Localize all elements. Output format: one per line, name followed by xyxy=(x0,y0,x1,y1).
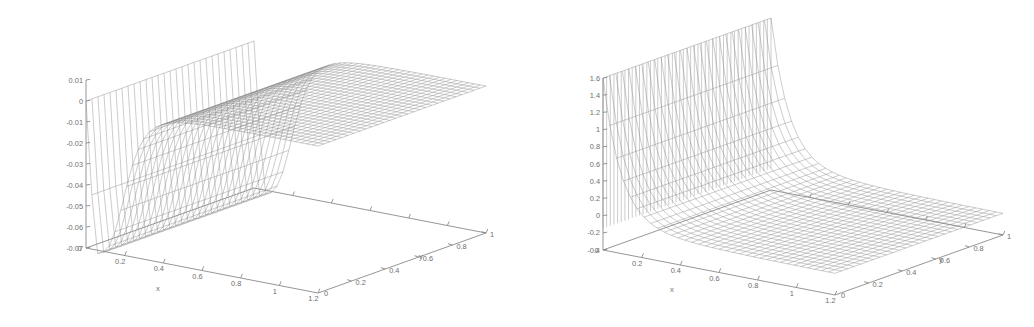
tick-label: 0.01 xyxy=(69,76,83,85)
tick-label: 0.2 xyxy=(873,280,883,289)
x-axis-label: x xyxy=(670,285,674,294)
tick-label: 0.8 xyxy=(456,242,466,251)
tick-label: 0.6 xyxy=(192,272,202,281)
x-axis-label: x xyxy=(156,284,160,293)
tick-label: 1 xyxy=(1007,232,1011,241)
tick-label: 0.4 xyxy=(590,177,600,186)
surface-mesh xyxy=(603,18,1003,273)
tick-label: 0.8 xyxy=(748,281,758,290)
left-surface-plot: 0.010-0.01-0.02-0.03-0.04-0.05-0.06-0.07… xyxy=(0,0,517,327)
base-axes xyxy=(86,188,488,293)
tick-label: -0.02 xyxy=(66,139,83,148)
tick-label: -0.06 xyxy=(66,223,83,232)
tick-label: 1.2 xyxy=(308,294,318,303)
tick-label: 1 xyxy=(273,287,277,296)
right-surface-plot: 1.61.41.210.80.60.40.20-0.2-0.400.20.40.… xyxy=(517,0,1034,327)
tick-label: -0.05 xyxy=(66,202,83,211)
tick-label: 1.2 xyxy=(825,296,835,305)
tick-label: -0.01 xyxy=(66,118,83,127)
tick-label: 0 xyxy=(841,291,845,300)
z-axis xyxy=(86,79,90,248)
tick-label: 0.4 xyxy=(671,266,681,275)
tick-label: 0.8 xyxy=(231,279,241,288)
tick-label: 0.2 xyxy=(115,257,125,266)
figure-canvas: 0.010-0.01-0.02-0.03-0.04-0.05-0.06-0.07… xyxy=(0,0,1034,327)
y-axis-label: y xyxy=(419,252,423,261)
tick-label: -0.03 xyxy=(66,160,83,169)
tick-label: 1.4 xyxy=(590,91,600,100)
tick-label: 0 xyxy=(79,97,83,106)
left-plot-svg: 0.010-0.01-0.02-0.03-0.04-0.05-0.06-0.07… xyxy=(0,0,517,327)
tick-label: -0.2 xyxy=(587,228,600,237)
tick-label: 0.6 xyxy=(709,274,719,283)
tick-label: 0.4 xyxy=(389,266,399,275)
tick-label: 0 xyxy=(77,244,81,253)
tick-label: 0.8 xyxy=(973,244,983,253)
tick-label: 0.4 xyxy=(906,268,916,277)
right-plot-svg: 1.61.41.210.80.60.40.20-0.2-0.400.20.40.… xyxy=(517,0,1034,327)
tick-label: 0 xyxy=(594,246,598,255)
tick-label: 0.6 xyxy=(590,160,600,169)
y-axis-label: y xyxy=(939,255,943,264)
tick-label: 1.2 xyxy=(590,108,600,117)
tick-label: 0.2 xyxy=(356,278,366,287)
tick-label: 1.6 xyxy=(590,74,600,83)
tick-label: 1 xyxy=(490,230,494,239)
tick-label: 1 xyxy=(790,289,794,298)
tick-label: 0.4 xyxy=(154,264,164,273)
tick-label: 0.2 xyxy=(632,259,642,268)
tick-label: 0.6 xyxy=(423,254,433,263)
axis-labels: 0.010-0.01-0.02-0.03-0.04-0.05-0.06-0.07… xyxy=(66,76,494,304)
tick-label: -0.04 xyxy=(66,181,83,190)
tick-label: 0 xyxy=(324,289,328,298)
tick-label: 1 xyxy=(596,125,600,134)
tick-label: 0.8 xyxy=(590,142,600,151)
tick-label: 0 xyxy=(596,211,600,220)
tick-label: 0.2 xyxy=(590,194,600,203)
